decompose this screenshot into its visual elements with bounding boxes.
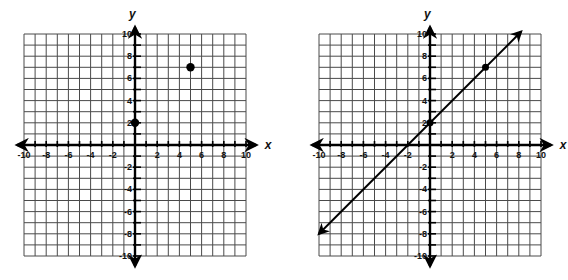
x-tick-label: -10 [17, 150, 30, 160]
line-graph: -10-8-6-4-2246810108642-2-4-6-8-10xy [312, 7, 568, 266]
x-axis-label: x [559, 138, 568, 152]
y-tick-label: 4 [422, 96, 427, 106]
y-tick-label: -4 [419, 184, 427, 194]
y-tick-label: -6 [419, 207, 427, 217]
y-tick-label: 6 [422, 73, 427, 83]
x-tick-label: 10 [241, 150, 251, 160]
y-axis-label: y [128, 7, 137, 21]
y-tick-label: -8 [124, 229, 132, 239]
x-tick-label: -6 [64, 150, 72, 160]
x-tick-label: 4 [472, 150, 477, 160]
coordinate-planes: -10-8-6-4-2246810108642-2-4-6-8-10xy-10-… [0, 0, 568, 280]
x-tick-label: 6 [199, 150, 204, 160]
y-tick-label: -6 [124, 207, 132, 217]
x-tick-label: 2 [450, 150, 455, 160]
points-graph: -10-8-6-4-2246810108642-2-4-6-8-10xy [17, 7, 273, 266]
x-tick-label: -2 [109, 150, 117, 160]
y-tick-label: 8 [422, 51, 427, 61]
y-tick-label: -2 [419, 162, 427, 172]
y-tick-label: -2 [124, 162, 132, 172]
y-tick-label: 6 [127, 73, 132, 83]
x-tick-label: 8 [516, 150, 521, 160]
y-tick-label: 10 [122, 29, 132, 39]
y-tick-label: -8 [419, 229, 427, 239]
data-point [131, 119, 139, 127]
y-tick-label: -10 [414, 251, 427, 261]
x-tick-label: -4 [87, 150, 95, 160]
data-point [427, 119, 434, 126]
x-axis-label: x [264, 138, 273, 152]
y-tick-label: 10 [417, 29, 427, 39]
x-tick-label: -6 [359, 150, 367, 160]
x-tick-label: 6 [494, 150, 499, 160]
data-point [482, 64, 489, 71]
x-tick-label: -2 [404, 150, 412, 160]
x-tick-label: 2 [155, 150, 160, 160]
y-axis-label: y [423, 7, 432, 21]
x-tick-label: 8 [221, 150, 226, 160]
x-tick-label: -8 [337, 150, 345, 160]
y-tick-label: 8 [127, 51, 132, 61]
x-tick-label: 4 [177, 150, 182, 160]
x-tick-label: -10 [312, 150, 325, 160]
data-point [186, 63, 194, 71]
x-tick-label: 10 [536, 150, 546, 160]
y-tick-label: 4 [127, 96, 132, 106]
y-tick-label: -4 [124, 184, 132, 194]
x-tick-label: -4 [382, 150, 390, 160]
y-tick-label: -10 [119, 251, 132, 261]
x-tick-label: -8 [42, 150, 50, 160]
plotted-line [319, 32, 521, 234]
